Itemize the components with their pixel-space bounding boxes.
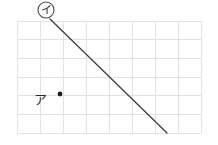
circled-label-text: イ bbox=[41, 4, 52, 17]
grid-figure-canvas: イ ア bbox=[0, 0, 218, 145]
plain-label-text: ア bbox=[34, 92, 47, 107]
figure-container: イ ア bbox=[0, 0, 218, 145]
point-marker-dot bbox=[58, 92, 63, 97]
